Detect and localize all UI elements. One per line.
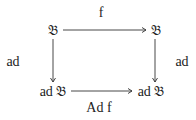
node-top-left: 𝔅 xyxy=(48,24,58,38)
label-right-arrow: ad xyxy=(175,55,188,69)
label-top-arrow: f xyxy=(99,6,104,20)
node-bottom-right: ad 𝔅 xyxy=(138,85,165,99)
label-bottom-arrow: Ad f xyxy=(86,101,111,115)
label-left-arrow: ad xyxy=(6,55,19,69)
node-top-right: 𝔅 xyxy=(151,24,161,38)
node-bottom-left: ad 𝔅 xyxy=(40,85,67,99)
